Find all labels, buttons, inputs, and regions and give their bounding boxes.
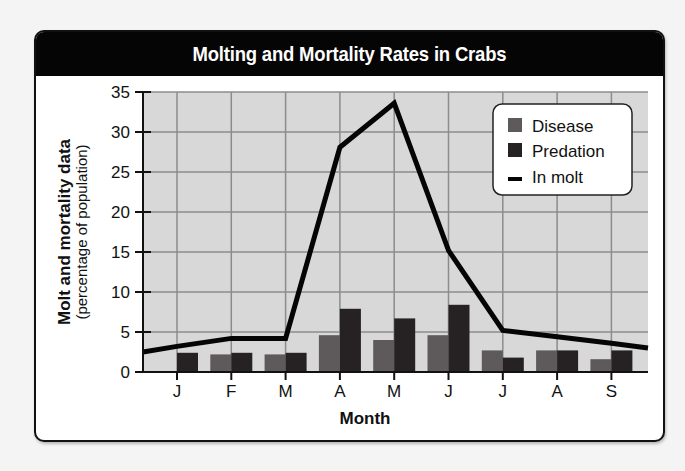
y-tick-label: 15 bbox=[111, 243, 130, 262]
bar-predation bbox=[503, 358, 524, 372]
bar-predation bbox=[286, 353, 307, 372]
bar-disease bbox=[428, 335, 449, 372]
x-axis-label: Month bbox=[340, 409, 391, 428]
legend: Disease Predation In molt bbox=[493, 104, 632, 195]
bar-disease bbox=[265, 354, 286, 372]
y-axis-title: Molt and mortality data (percentage of p… bbox=[55, 138, 90, 325]
x-tick-label: M bbox=[387, 382, 401, 401]
bar-disease bbox=[536, 350, 557, 372]
bar-disease bbox=[482, 350, 503, 372]
y-tick-label: 30 bbox=[111, 123, 130, 142]
predation-swatch-icon bbox=[508, 143, 522, 157]
x-tick-label: M bbox=[279, 382, 293, 401]
y-tick-label: 25 bbox=[111, 163, 130, 182]
x-tick-label: J bbox=[444, 382, 453, 401]
bar-predation bbox=[449, 305, 470, 372]
bar-predation bbox=[394, 318, 415, 372]
x-tick-label: A bbox=[334, 382, 346, 401]
bar-disease bbox=[590, 359, 611, 372]
x-tick-label: S bbox=[606, 382, 617, 401]
bar-disease bbox=[210, 354, 231, 372]
y-axis-sublabel: (percentage of population) bbox=[73, 144, 90, 319]
x-tick-label: J bbox=[173, 382, 182, 401]
line-swatch-icon bbox=[508, 177, 522, 181]
legend-label: Disease bbox=[532, 117, 593, 136]
legend-label: Predation bbox=[532, 142, 605, 161]
bar-disease bbox=[373, 340, 394, 372]
disease-swatch-icon bbox=[508, 118, 522, 132]
legend-label: In molt bbox=[532, 168, 583, 187]
bar-predation bbox=[177, 353, 198, 372]
bar-predation bbox=[231, 353, 252, 372]
bar-disease bbox=[319, 335, 340, 372]
y-tick-label: 5 bbox=[121, 323, 130, 342]
x-tick-label: J bbox=[499, 382, 508, 401]
bar-predation bbox=[611, 350, 632, 372]
x-tick-label: F bbox=[226, 382, 236, 401]
bar-predation bbox=[557, 350, 578, 372]
y-tick-label: 20 bbox=[111, 203, 130, 222]
x-tick-label: A bbox=[551, 382, 563, 401]
y-tick-label: 0 bbox=[121, 363, 130, 382]
y-axis-label: Molt and mortality data bbox=[55, 138, 74, 325]
chart-plot: 05101520253035JFMAMJJAS Disease Predatio… bbox=[0, 0, 685, 471]
y-tick-label: 35 bbox=[111, 83, 130, 102]
y-tick-label: 10 bbox=[111, 283, 130, 302]
bar-predation bbox=[340, 309, 361, 372]
